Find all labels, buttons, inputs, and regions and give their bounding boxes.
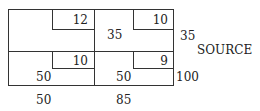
cost-box-r1c2-left xyxy=(133,9,134,29)
supply-r2: 100 xyxy=(176,71,199,83)
cost-box-r1c1-bottom xyxy=(52,29,94,30)
allocation-r1c2: 35 xyxy=(107,29,122,41)
cost-r1c1: 12 xyxy=(60,14,88,26)
frame-bottom xyxy=(8,85,174,86)
cost-box-r2c1-left xyxy=(52,51,53,69)
cost-box-r1c2-bottom xyxy=(133,29,173,30)
supply-r1: 35 xyxy=(180,30,195,42)
cost-r1c2: 10 xyxy=(140,14,168,26)
demand-c1: 50 xyxy=(36,94,51,106)
cost-box-r2c1-bottom xyxy=(52,68,94,69)
frame-right xyxy=(173,9,174,86)
cost-box-r1c1-left xyxy=(52,9,53,29)
allocation-r2c2: 50 xyxy=(116,71,131,83)
cost-box-r2c2-bottom xyxy=(133,68,173,69)
source-label: SOURCE xyxy=(197,44,252,56)
allocation-r2c1: 50 xyxy=(36,71,51,83)
cost-r2c2: 9 xyxy=(140,55,168,67)
frame-top xyxy=(8,9,174,10)
demand-c2: 85 xyxy=(116,94,131,106)
column-divider xyxy=(94,9,95,86)
frame-left xyxy=(8,9,9,86)
row-divider xyxy=(8,51,174,52)
cost-box-r2c2-left xyxy=(133,51,134,69)
cost-r2c1: 10 xyxy=(60,55,88,67)
